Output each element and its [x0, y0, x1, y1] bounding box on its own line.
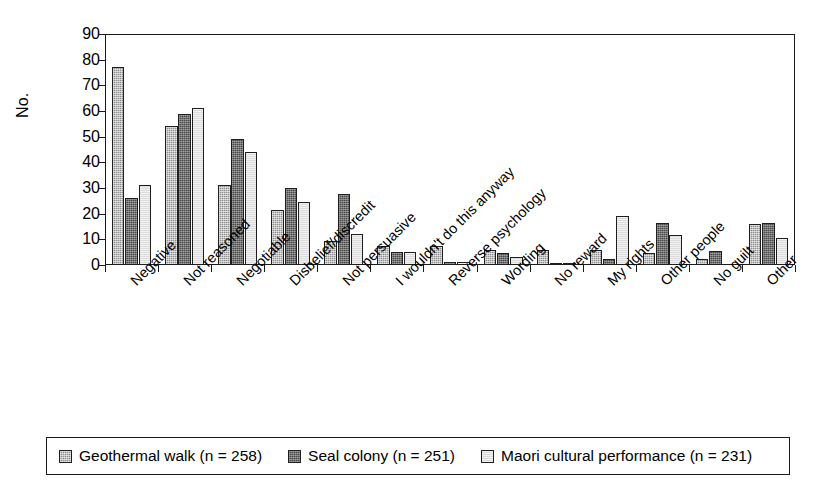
- bar: [112, 67, 125, 265]
- chart-legend: Geothermal walk (n = 258)Seal colony (n …: [46, 437, 790, 475]
- y-tick-label: 40: [54, 154, 100, 170]
- bar: [178, 114, 191, 265]
- bar: [125, 198, 138, 265]
- bar: [696, 259, 709, 265]
- bar: [603, 259, 616, 265]
- y-tick-label: 60: [54, 103, 100, 119]
- bar: [391, 252, 404, 265]
- legend-label: Geothermal walk (n = 258): [79, 447, 262, 465]
- series-0-swatch: [59, 450, 72, 463]
- series-2-swatch: [481, 450, 494, 463]
- legend-item: Geothermal walk (n = 258): [59, 447, 262, 465]
- y-tick-label: 20: [54, 206, 100, 222]
- bar-chart-figure: No. 0102030405060708090 NegativeNot reas…: [0, 0, 836, 504]
- y-tick-label: 30: [54, 180, 100, 196]
- bar-group: [158, 34, 211, 265]
- y-tick-label: 70: [54, 77, 100, 93]
- bar-group: [530, 34, 583, 265]
- series-1-swatch: [288, 450, 301, 463]
- bar: [762, 223, 775, 265]
- y-tick-label: 90: [54, 26, 100, 42]
- bar: [497, 253, 510, 265]
- y-tick-label: 50: [54, 129, 100, 145]
- legend-label: Maori cultural performance (n = 231): [501, 447, 752, 465]
- bar-group: [583, 34, 636, 265]
- bar: [709, 251, 722, 265]
- bar-group: [264, 34, 317, 265]
- bar: [192, 108, 205, 265]
- legend-item: Seal colony (n = 251): [288, 447, 455, 465]
- x-tick-mark: [105, 265, 106, 272]
- bar: [656, 223, 669, 265]
- bar: [245, 152, 258, 265]
- legend-item: Maori cultural performance (n = 231): [481, 447, 752, 465]
- y-tick-label: 0: [54, 257, 100, 273]
- y-tick-label: 10: [54, 231, 100, 247]
- bar: [139, 185, 152, 265]
- bar-group: [636, 34, 689, 265]
- bar-group: [742, 34, 795, 265]
- bar-group: [105, 34, 158, 265]
- y-axis-tick-labels: 0102030405060708090: [48, 34, 100, 265]
- y-axis-title: No.: [14, 93, 32, 119]
- bar: [444, 262, 457, 265]
- legend-label: Seal colony (n = 251): [308, 447, 455, 465]
- bar: [550, 263, 563, 265]
- y-tick-label: 80: [54, 52, 100, 68]
- bar: [285, 188, 298, 265]
